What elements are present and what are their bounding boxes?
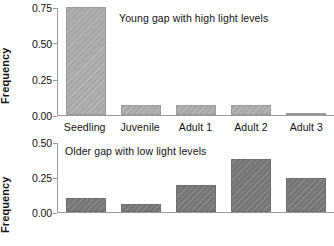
bar-slot-seedling (58, 7, 113, 115)
panel-older-gap: Frequency 0.00 0.25 0.50 (0, 143, 334, 243)
x-axis-labels-top: Seedling Juvenile Adult 1 Adult 2 Adult … (57, 121, 334, 133)
y-tick-label-1: 0.25 (32, 172, 52, 184)
x-label-adult-1: Adult 1 (168, 121, 223, 133)
y-tick-1: 0.25 (32, 74, 52, 86)
y-axis-label-top: Frequency (0, 47, 11, 104)
y-tick-label-0: 0.00 (32, 207, 52, 219)
y-axis-ticks-top: 0.00 0.25 0.50 0.75 (16, 8, 52, 116)
panel-young-gap: Frequency 0.00 0.25 0.50 0.75 (0, 8, 334, 116)
bar-adult-2 (231, 159, 271, 212)
figure-two-panel-bar-chart: Frequency 0.00 0.25 0.50 0.75 (0, 0, 334, 246)
plot-area-bottom: Older gap with low light levels (57, 143, 334, 213)
bar-adult-3 (286, 178, 326, 212)
y-tick-3: 0.75 (32, 2, 52, 14)
panel-annotation-bottom: Older gap with low light levels (65, 145, 206, 157)
y-tick-0: 0.00 (32, 110, 52, 122)
x-axis-line-top (57, 115, 334, 116)
bar-seedling (66, 198, 106, 212)
bar-slot-adult-2 (224, 142, 279, 212)
plot-area-top: Young gap with high light levels (57, 8, 334, 116)
y-axis-label-bottom: Frequency (0, 176, 11, 233)
bar-seedling (66, 7, 106, 115)
bar-adult-2 (231, 105, 271, 115)
x-axis-line-bottom (57, 212, 334, 213)
clipped-text-sliver (96, 0, 334, 7)
y-tick-2: 0.50 (32, 137, 52, 149)
y-tick-label-2: 0.50 (32, 137, 52, 149)
bar-adult-1 (176, 185, 216, 212)
panel-annotation-top: Young gap with high light levels (119, 12, 268, 24)
y-tick-label-0: 0.00 (32, 110, 52, 122)
bar-slot-adult-3 (279, 7, 334, 115)
y-tick-1: 0.25 (32, 172, 52, 184)
bar-juvenile (121, 204, 161, 212)
x-label-adult-2: Adult 2 (223, 121, 278, 133)
y-tick-2: 0.50 (32, 38, 52, 50)
y-tick-label-3: 0.75 (32, 2, 52, 14)
bar-adult-3 (286, 113, 326, 115)
x-label-adult-3: Adult 3 (279, 121, 334, 133)
y-tick-label-1: 0.25 (32, 74, 52, 86)
bar-slot-adult-3 (279, 142, 334, 212)
y-tick-0: 0.00 (32, 207, 52, 219)
bar-adult-1 (176, 105, 216, 115)
bar-juvenile (121, 105, 161, 115)
x-label-seedling: Seedling (57, 121, 112, 133)
x-label-juvenile: Juvenile (112, 121, 167, 133)
y-axis-ticks-bottom: 0.00 0.25 0.50 (16, 143, 52, 213)
y-tick-label-2: 0.50 (32, 38, 52, 50)
